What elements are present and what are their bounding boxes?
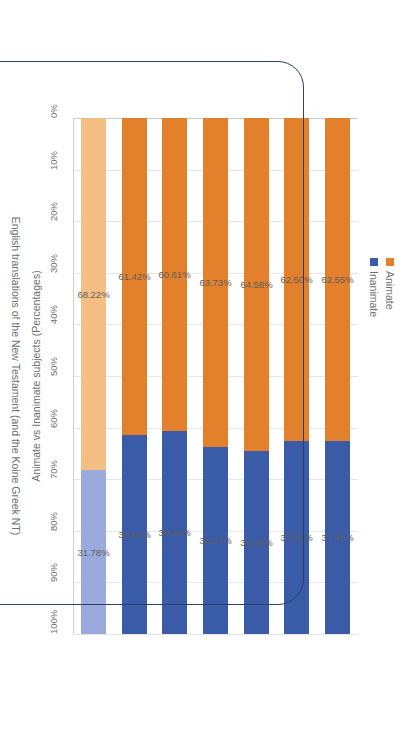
bar-segment-animate[interactable]: 62.55% [325, 118, 350, 441]
bar-segment-animate[interactable]: 64.58% [244, 118, 269, 451]
x-tick-0: 0% [48, 104, 59, 118]
bar-value-label-animate: 68.22% [77, 288, 109, 299]
bar-row[interactable]: 63.73%36.27% [203, 118, 228, 634]
bar-segment-inanimate[interactable]: 35.42% [244, 451, 269, 634]
legend-label-animate: Animate [384, 271, 396, 310]
chart-figure-rotated: Animate Inanimate 62.55%37.45%62.50%37.5… [0, 0, 410, 752]
plot-area: 62.55%37.45%62.50%37.50%64.58%35.42%63.7… [73, 118, 358, 634]
bar-row[interactable]: 60.61%39.39% [162, 118, 187, 634]
bar-row[interactable]: 68.22%31.78% [81, 118, 106, 634]
bar-value-label-inanimate: 37.45% [322, 532, 354, 543]
bar-row[interactable]: 64.58%35.42% [244, 118, 269, 634]
x-tick-50: 50% [48, 357, 59, 376]
x-tick-80: 80% [48, 512, 59, 531]
bar-value-label-inanimate: 37.50% [281, 532, 313, 543]
bar-segment-inanimate[interactable]: 37.50% [284, 441, 309, 635]
bar-value-label-inanimate: 39.39% [159, 527, 191, 538]
bar-value-label-animate: 62.55% [322, 274, 354, 285]
chart-legend: Animate Inanimate [368, 258, 396, 317]
bar-value-label-inanimate: 38.58% [118, 529, 150, 540]
category-axis-title-wrap: English translations of the New Testamen… [2, 0, 22, 752]
x-tick-30: 30% [48, 254, 59, 273]
legend-swatch-animate [386, 258, 394, 266]
x-tick-60: 60% [48, 409, 59, 428]
bar-segment-inanimate[interactable]: 36.27% [203, 447, 228, 634]
bar-segment-animate[interactable]: 60.61% [162, 118, 187, 431]
bar-row[interactable]: 62.50%37.50% [284, 118, 309, 634]
category-axis-title: English translations of the New Testamen… [10, 118, 22, 634]
bar-row[interactable]: 61.42%38.58% [122, 118, 147, 634]
bar-value-label-animate: 61.42% [118, 271, 150, 282]
bar-segment-animate[interactable]: 62.50% [284, 118, 309, 441]
legend-item-inanimate: Inanimate [368, 258, 380, 317]
bar-value-label-animate: 60.61% [159, 269, 191, 280]
value-axis-title-wrap: Animate vs Inanimate subjects (Percentag… [20, 118, 42, 634]
bar-row[interactable]: 62.55%37.45% [325, 118, 350, 634]
bar-value-label-inanimate: 31.78% [77, 546, 109, 557]
chart-figure: Animate Inanimate 62.55%37.45%62.50%37.5… [0, 0, 410, 752]
legend-swatch-inanimate [370, 258, 378, 266]
x-tick-20: 20% [48, 202, 59, 221]
legend-label-inanimate: Inanimate [368, 271, 380, 317]
gridline-100 [73, 634, 358, 635]
x-tick-90: 90% [48, 563, 59, 582]
bar-value-label-animate: 62.50% [281, 274, 313, 285]
x-tick-100: 100% [48, 610, 59, 634]
x-axis-line [73, 118, 74, 634]
value-axis-title: Animate vs Inanimate subjects (Percentag… [30, 118, 42, 634]
bar-segment-animate[interactable]: 68.22% [81, 118, 106, 470]
bar-segment-inanimate[interactable]: 38.58% [122, 435, 147, 634]
bar-value-label-inanimate: 36.27% [199, 535, 231, 546]
bar-value-label-animate: 63.73% [199, 277, 231, 288]
bar-segment-inanimate[interactable]: 39.39% [162, 431, 187, 634]
bar-value-label-animate: 64.58% [240, 279, 272, 290]
bar-value-label-inanimate: 35.42% [240, 537, 272, 548]
x-tick-70: 70% [48, 460, 59, 479]
bar-segment-inanimate[interactable]: 37.45% [325, 441, 350, 634]
x-tick-10: 10% [48, 151, 59, 170]
bar-series-container: 62.55%37.45%62.50%37.50%64.58%35.42%63.7… [73, 118, 358, 634]
bar-segment-animate[interactable]: 63.73% [203, 118, 228, 447]
legend-item-animate: Animate [384, 258, 396, 317]
x-tick-40: 40% [48, 305, 59, 324]
bar-segment-inanimate[interactable]: 31.78% [81, 470, 106, 634]
bar-segment-animate[interactable]: 61.42% [122, 118, 147, 435]
